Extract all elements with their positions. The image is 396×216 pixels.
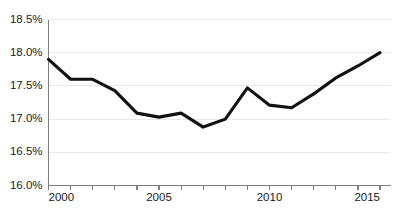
y-tick-label: 17.0% [10, 112, 43, 124]
y-tick-labels: 18.5%18.0%17.5%17.0%16.5%16.0% [10, 13, 43, 191]
y-tick-label: 16.0% [10, 179, 43, 191]
x-tick-label: 2005 [146, 191, 172, 203]
y-tick-label: 17.5% [10, 79, 43, 91]
x-tick-label: 2015 [354, 191, 380, 203]
x-tick-label: 2010 [257, 191, 283, 203]
y-tick-label: 16.5% [10, 145, 43, 157]
x-axis [49, 186, 392, 190]
y-tick-label: 18.0% [10, 46, 43, 58]
y-tick-label: 18.5% [10, 13, 43, 25]
x-tick-label: 2000 [49, 191, 75, 203]
data-series-group [49, 53, 381, 127]
chart-canvas: 18.5%18.0%17.5%17.0%16.5%16.0% 200020052… [0, 0, 396, 216]
series-line-path [49, 53, 381, 127]
x-tick-labels: 2000200520102015 [49, 191, 381, 203]
gridlines [49, 20, 392, 153]
line-chart: 18.5%18.0%17.5%17.0%16.5%16.0% 200020052… [0, 0, 396, 216]
